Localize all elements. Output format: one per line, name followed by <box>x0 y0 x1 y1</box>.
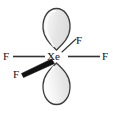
atom-label-f-upper-right: F <box>76 35 82 46</box>
lone-pair-top-lobe <box>43 9 70 51</box>
atom-label-xe-center: Xe <box>47 51 60 62</box>
molecule-diagram: F F F F Xe <box>0 0 113 113</box>
lone-pair-bottom-lobe <box>43 63 70 105</box>
atom-label-f-left: F <box>3 51 9 62</box>
atom-label-f-lower-left: F <box>13 69 19 80</box>
atom-label-f-right: F <box>102 51 108 62</box>
